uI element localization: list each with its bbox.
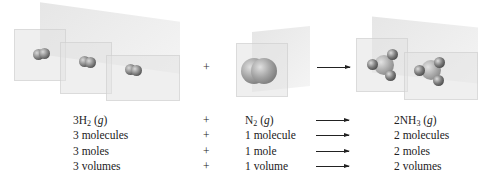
reaction-arrow-illustration bbox=[317, 67, 350, 68]
nh3-state: g bbox=[427, 114, 433, 126]
nh3-molecule-1-hydrogen-1 bbox=[387, 49, 398, 60]
nh3-molecules-text: 2 molecules bbox=[394, 128, 449, 142]
nh3-molecule-2-hydrogen-3 bbox=[433, 75, 444, 86]
n2-state: g bbox=[264, 114, 270, 126]
h2-formula: 3H2 (g) bbox=[73, 113, 107, 127]
h2-moles-text: 3 moles bbox=[73, 144, 109, 158]
h2-volumes-text: 3 volumes bbox=[73, 159, 121, 173]
h2-box-2 bbox=[60, 42, 112, 94]
nh3-subscript: 3 bbox=[416, 119, 420, 128]
plus-sign-row-3: + bbox=[203, 159, 210, 173]
h2-box-3 bbox=[106, 55, 180, 101]
reaction-arrow-row-1 bbox=[316, 135, 349, 136]
plus-sign-row-2: + bbox=[203, 144, 210, 158]
nh3-molecule-1-hydrogen-2 bbox=[367, 59, 378, 70]
n2-molecule-atom-b bbox=[251, 58, 277, 84]
h2-molecules-text: 3 molecules bbox=[73, 128, 128, 142]
nh3-volumes-text: 2 volumes bbox=[394, 159, 442, 173]
h2-symbol: H bbox=[79, 114, 87, 126]
h2-molecule-2-atom-b bbox=[85, 57, 96, 68]
n2-moles-text: 1 mole bbox=[245, 144, 277, 158]
plus-sign-row-0: + bbox=[203, 113, 210, 127]
plus-sign-illustration: + bbox=[203, 60, 210, 75]
n2-formula: N2 (g) bbox=[245, 113, 274, 127]
h2-state: g bbox=[98, 114, 104, 126]
nh3-formula: 2NH3 (g) bbox=[394, 113, 437, 127]
n2-molecules-text: 1 molecule bbox=[245, 128, 296, 142]
h2-molecule-3-atom-b bbox=[131, 65, 142, 76]
nh3-symbol: NH bbox=[400, 114, 417, 126]
reaction-arrow-row-0 bbox=[316, 120, 349, 121]
plus-sign-row-1: + bbox=[203, 128, 210, 142]
reaction-arrow-row-2 bbox=[316, 151, 349, 152]
n2-volumes-text: 1 volume bbox=[245, 159, 288, 173]
h2-subscript: 2 bbox=[87, 119, 91, 128]
nh3-moles-text: 2 moles bbox=[394, 144, 430, 158]
n2-subscript: 2 bbox=[253, 119, 257, 128]
nh3-molecule-1-hydrogen-3 bbox=[385, 70, 396, 81]
nh3-molecule-2-hydrogen-1 bbox=[434, 57, 445, 68]
h2-molecule-1-atom-b bbox=[39, 48, 50, 59]
nh3-molecule-2-hydrogen-2 bbox=[414, 65, 425, 76]
reaction-arrow-row-3 bbox=[316, 166, 349, 167]
